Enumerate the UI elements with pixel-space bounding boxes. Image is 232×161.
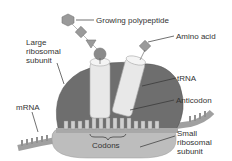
label-anticodon: Anticodon	[176, 96, 212, 105]
label-amino-acid: Amino acid	[176, 32, 216, 41]
label-small-ribosomal-subunit: Small ribosomal subunit	[177, 129, 212, 156]
trna-left	[90, 58, 110, 118]
label-trna: tRNA	[177, 74, 196, 83]
label-growing-polypeptide: Growing polypeptide	[96, 16, 169, 25]
label-large-ribosomal-subunit: Large ribosomal subunit	[26, 38, 61, 65]
label-codons: Codons	[92, 141, 120, 150]
label-mrna: mRNA	[16, 103, 40, 112]
amino-acid-icon	[139, 40, 150, 60]
